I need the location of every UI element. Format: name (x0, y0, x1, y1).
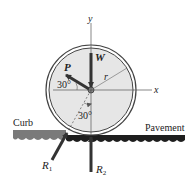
r2-subscript: 2 (103, 169, 107, 177)
r1-symbol: R (42, 159, 49, 171)
weight-label: W (95, 52, 105, 63)
angle-r1-label: 30° (78, 111, 92, 121)
angle-p-label: 30° (57, 80, 71, 90)
r2-symbol: R (96, 163, 103, 175)
radius-label: r (104, 72, 108, 82)
curb-surface (13, 130, 66, 140)
diagram-graphics (0, 0, 195, 185)
curb-label: Curb (13, 118, 33, 128)
force-p-label: P (64, 62, 71, 73)
pavement-label: Pavement (145, 123, 184, 133)
y-axis-label: y (88, 14, 92, 24)
r1-label: R1 (42, 160, 52, 173)
x-axis-label: x (154, 85, 158, 95)
r1-subscript: 1 (49, 165, 53, 173)
r2-label: R2 (96, 164, 106, 177)
free-body-diagram: y x W P r 30° 30° Curb Pavement R1 R2 (0, 0, 195, 185)
pavement-surface (66, 135, 185, 142)
